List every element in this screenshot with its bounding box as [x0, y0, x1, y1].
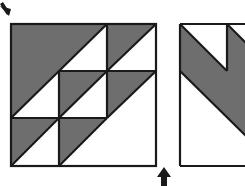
left-square	[11, 24, 156, 166]
diagram-canvas	[0, 0, 245, 186]
arrow-down-right-icon	[0, 2, 11, 16]
right-square	[180, 24, 245, 166]
arrow-up-icon	[157, 167, 171, 186]
